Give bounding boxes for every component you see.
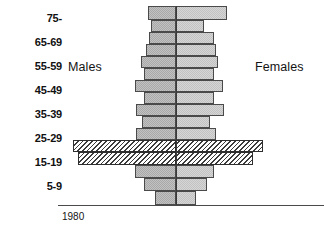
bar-hatched-male-20-24 — [73, 140, 176, 152]
bar-female-55-59 — [176, 56, 218, 68]
bar-female-45-49 — [176, 80, 223, 92]
center-axis-line — [176, 6, 177, 205]
bar-male-75-plus — [148, 6, 176, 20]
bar-male-40-44 — [144, 92, 176, 104]
bar-female-75-plus — [176, 6, 227, 20]
bar-female-35-39 — [176, 104, 224, 116]
bar-hatched-male-15-19 — [78, 152, 176, 165]
bar-male-0-4 — [155, 191, 176, 205]
bar-female-30-34 — [176, 116, 210, 128]
bar-male-35-39 — [136, 104, 176, 116]
bar-male-25-29 — [136, 128, 176, 140]
bar-hatched-female-15-19 — [176, 152, 253, 165]
bar-female-65-69 — [176, 32, 214, 44]
bar-male-50-54 — [144, 68, 176, 80]
bar-female-60-64 — [176, 44, 216, 56]
females-label: Females — [255, 60, 304, 74]
bar-male-30-34 — [142, 116, 176, 128]
bar-male-65-69 — [149, 32, 176, 44]
bar-female-0-4 — [176, 191, 196, 205]
bar-female-5-9 — [176, 178, 207, 191]
bar-female-10-14 — [176, 165, 214, 178]
population-pyramid-figure: 75- 65-69 55-59 45-49 35-39 25-29 15-19 … — [0, 0, 324, 234]
plot-area: Males Females — [0, 0, 324, 210]
bar-female-50-54 — [176, 68, 214, 80]
bar-female-25-29 — [176, 128, 216, 140]
bar-male-60-64 — [146, 44, 176, 56]
bar-male-70-74 — [151, 20, 176, 32]
bar-female-70-74 — [176, 20, 204, 32]
bar-female-40-44 — [176, 92, 214, 104]
bar-male-55-59 — [141, 56, 176, 68]
bar-hatched-female-20-24 — [176, 140, 263, 152]
males-label: Males — [68, 60, 102, 74]
baseline-axis — [58, 205, 324, 206]
bar-male-10-14 — [135, 165, 176, 178]
year-caption: 1980 — [62, 211, 84, 222]
bar-male-45-49 — [135, 80, 176, 92]
bar-male-5-9 — [144, 178, 176, 191]
